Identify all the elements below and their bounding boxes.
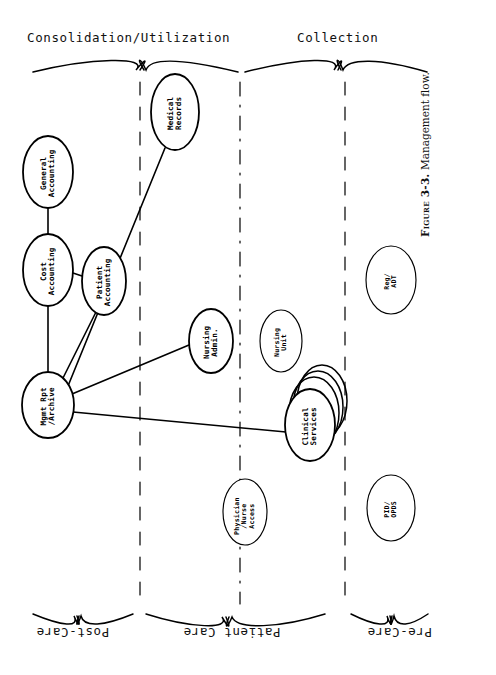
brace-bottom-pre-care xyxy=(351,614,428,624)
brace-top-consolidation xyxy=(33,60,238,72)
node-label-mgmt-rpt-archive: Mgmt Rpt /Archive xyxy=(40,366,57,446)
node-label-medical-records: Medical Records xyxy=(167,73,184,153)
brace-bottom-post-care xyxy=(33,614,133,624)
node-label-clinical-services: Clinical Services xyxy=(302,388,319,464)
brace-bottom-patient-care xyxy=(146,614,325,626)
node-label-reg-adt: Reg/ ADT xyxy=(384,251,399,311)
edge-cost-to-patient xyxy=(73,273,82,276)
node-label-cost-accounting: Cost Accounting xyxy=(40,231,57,311)
node-label-patient-accounting: Patient Accounting xyxy=(96,242,113,322)
figure-caption-text: Management flow. xyxy=(419,72,431,170)
figure-caption: Figure 3-3. Management flow. xyxy=(419,0,431,237)
node-label-nursing-admin: Nursing Admin. xyxy=(203,307,220,377)
node-label-pid-opds: PID/ OPDS xyxy=(384,479,399,539)
node-label-general-accounting: General Accounting xyxy=(40,133,57,213)
brace-top-collection xyxy=(245,60,427,72)
figure-canvas: Consolidation/Utilization Collection Pos… xyxy=(0,0,496,675)
figure-caption-prefix: Figure 3-3. xyxy=(419,173,431,237)
edge-patient-to-mgmt xyxy=(63,312,96,378)
edge-clinical-to-mgmt xyxy=(73,412,286,432)
edge-nursing-admin-to-mgmt xyxy=(72,345,189,394)
node-label-nursing-unit: Nursing Unit xyxy=(274,309,289,375)
node-label-physician-nurse-access: Physician /Nurse Access xyxy=(234,483,256,549)
